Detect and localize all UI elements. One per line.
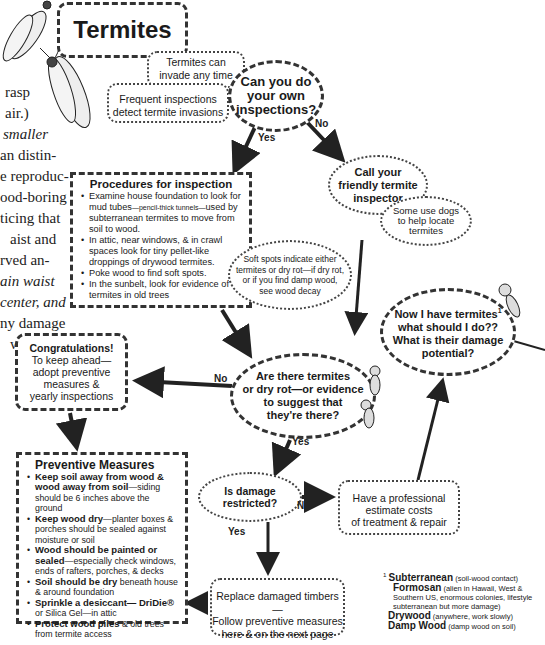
preventive-measures-box: Preventive Measures Keep soil away from … [16,452,188,624]
node-line: Call your [338,166,417,179]
question-line: Can you do [236,75,316,89]
item-bold: Keep wood dry [35,513,103,524]
item-bold: Protect wood piles [35,618,119,629]
side-text-line: an distin- [0,145,95,166]
footnote: 1 Subterranean (soil-wood contact) Formo… [383,570,543,631]
preventive-list: Keep soil away from wood & wood away fro… [25,472,179,640]
professional-estimate-box: Have a professional estimate costs of tr… [338,480,460,535]
item-text: In the sunbelt, look for evidence of ter… [89,279,229,300]
node-line: friendly termite [338,179,417,192]
question-line: your own [236,89,316,103]
procedures-item: In the sunbelt, look for evidence of ter… [89,279,243,301]
item-bold: Soil should be dry [35,576,117,587]
node-line: What is their damage [393,334,504,347]
note-line: termites or dry rot—if dry rot, [236,265,344,276]
congratulations-box: Congratulations! To keep ahead— adopt pr… [15,333,128,411]
yes-label: Yes [258,132,275,143]
preventive-heading: Preventive Measures [35,460,179,471]
title-box: Termites [57,2,188,58]
termite-pair-icon [358,365,386,430]
node-line: Now I have termites [394,308,497,320]
node-line: here & on the next page [212,628,343,641]
item-text: In attic, near windows, & in crawl space… [89,235,222,267]
termite-worker-icon [497,282,527,322]
note-line: invade any time [149,69,243,82]
footnote-marker: 1 [383,571,386,578]
preventive-item: Keep soil away from wood & wood away fro… [35,472,179,514]
node-line: Follow preventive measures [212,615,343,628]
now-what-node: Now I have termites1 what should I do?? … [380,288,516,376]
question-line: Are there termites [242,370,363,383]
page-title: Termites [73,16,171,44]
question-own-inspections: Can you do your own inspections? [228,60,324,132]
side-text-line: ny damage [0,313,95,334]
replace-timbers-box: Replace damaged timbers— Follow preventi… [210,578,345,636]
congrats-line: To keep ahead— [18,354,125,366]
congrats-line: adopt preventive [18,366,125,378]
no-label: No [315,118,328,129]
question-line: restricted? [223,497,277,509]
note-line: or if you find damp wood, [236,275,344,286]
dogs-note: Some use dogs to help locate termites [380,196,472,246]
no-label: No [214,373,227,384]
question-termites-evidence: Are there termites or dry rot—or evidenc… [230,353,376,439]
note-line: Frequent inspections [109,93,227,106]
node-line: Replace damaged timbers— [212,590,343,615]
procedures-list: Examine house foundation to look for mud… [79,191,243,301]
congrats-line: measures & [18,378,125,390]
item-text: Poke wood to find soft spots. [89,268,206,278]
note-line: Termites can [149,56,243,69]
preventive-item: Sprinkle a desiccant— DriDie® or Silica … [35,598,179,619]
footnote-desc: (damp wood on soil) [446,622,516,631]
preventive-item: Soil should be dry beneath house & aroun… [35,577,179,598]
side-text-line: air.) [0,103,95,124]
note-frequent: Frequent inspections detect termite inva… [107,83,229,123]
footnote-term: Formosan [393,582,441,593]
procedures-item: Poke wood to find soft spots. [89,268,243,279]
note-line: termites [393,226,459,236]
node-line: what should I do?? [393,321,504,334]
item-small-text: —pencil-thick tunnels— [132,204,206,211]
note-line: Soft spots indicate either [236,254,344,265]
question-damage-restricted: Is damage restricted? [198,472,302,522]
node-line: of treatment & repair [340,516,458,528]
procedures-item: In attic, near windows, & in crawl space… [89,235,243,268]
footnote-term: Damp Wood [388,620,446,631]
preventive-item: Wood should be painted or sealed—especia… [35,545,179,577]
side-text-line: smaller [0,124,95,145]
node-line: potential? [393,347,504,360]
procedures-heading: Procedures for inspection [79,179,243,190]
question-line: they're there? [242,409,363,422]
congrats-line: yearly inspections [18,390,125,402]
node-line: estimate costs [340,504,458,516]
yes-label: Yes [292,436,309,447]
procedures-box: Procedures for inspection Examine house … [70,172,252,308]
question-line: inspections? [236,103,316,117]
preventive-item: Keep wood dry—planter boxes & porches sh… [35,514,179,546]
question-line: or dry rot—or evidence [242,383,363,396]
item-bold: Sprinkle a desiccant— DriDie® [35,597,174,608]
congrats-heading: Congratulations! [18,342,125,354]
yes-label: Yes [228,526,245,537]
node-line: Have a professional [340,492,458,504]
soft-spots-note: Soft spots indicate either termites or d… [228,240,352,310]
preventive-item: Protect wood piles & old trees from term… [35,619,179,640]
note-line: see wood decay [236,286,344,297]
item-text: or Silica Gel—in attic [35,608,117,618]
no-label: No [297,500,310,511]
procedures-item: Examine house foundation to look for mud… [89,191,243,235]
question-line: to suggest that [242,396,363,409]
question-line: Is damage [223,485,277,497]
note-line: detect termite invasions [109,106,227,119]
footnote-desc: (soil-wood contact) [453,574,518,583]
side-text-line: rasp [0,82,95,103]
